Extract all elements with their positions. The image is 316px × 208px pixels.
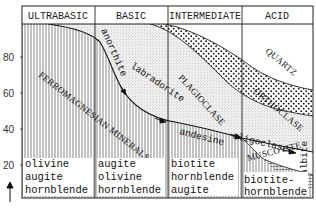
intermediate-mineral-1: biotite bbox=[171, 158, 215, 170]
header-acid: ACID bbox=[265, 11, 289, 22]
quartz-label: QUARTZ bbox=[264, 46, 299, 78]
y-tick-40: 40 bbox=[3, 124, 15, 135]
intermediate-mineral-3: augite bbox=[171, 184, 209, 196]
y-tick-20: 20 bbox=[3, 160, 15, 171]
up-arrow-icon bbox=[7, 182, 13, 202]
ultrabasic-mineral-1: olivine bbox=[25, 158, 69, 170]
y-tick-80: 80 bbox=[3, 52, 15, 63]
albite-label: albite bbox=[299, 140, 310, 175]
y-axis: 80 60 40 20 bbox=[3, 52, 23, 202]
header-intermediate: INTERMEDIATE bbox=[169, 11, 241, 22]
basic-mineral-2: olivine bbox=[98, 171, 142, 183]
basic-mineral-1: augite bbox=[98, 158, 136, 170]
acid-mineral-1: biotite- bbox=[244, 174, 294, 186]
mineral-composition-diagram: ULTRABASIC BASIC INTERMEDIATE ACID 80 60… bbox=[0, 0, 316, 208]
basic-mineral-3: hornblende bbox=[98, 184, 161, 196]
ultrabasic-mineral-2: augite bbox=[25, 171, 63, 183]
ultrabasic-mineral-3: hornblende bbox=[25, 184, 88, 196]
header-basic: BASIC bbox=[116, 11, 146, 22]
intermediate-mineral-2: hornblende bbox=[171, 171, 234, 183]
acid-mineral-2: hornblende bbox=[244, 186, 307, 198]
y-tick-60: 60 bbox=[3, 88, 15, 99]
header-ultrabasic: ULTRABASIC bbox=[28, 11, 88, 22]
